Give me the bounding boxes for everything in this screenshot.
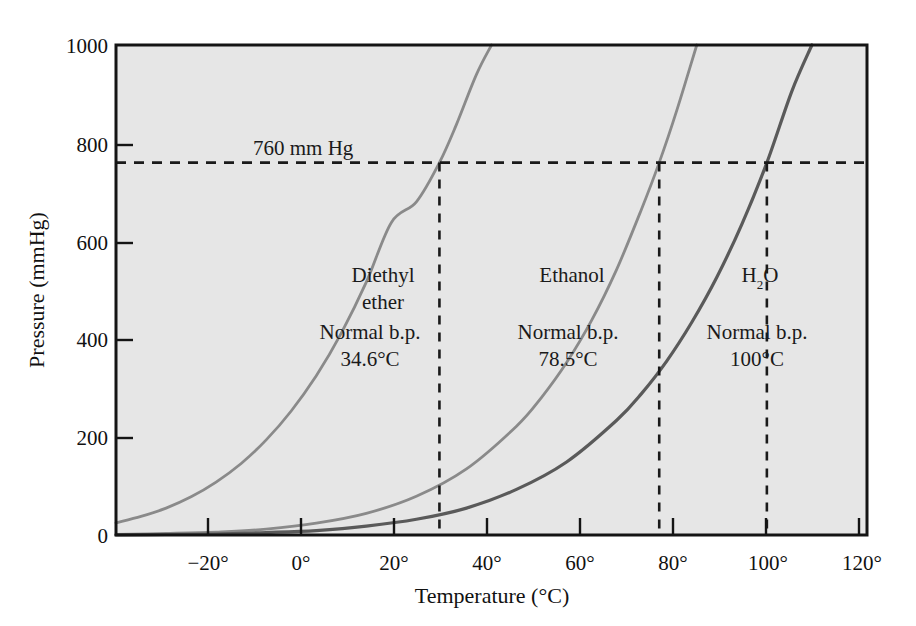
annotation-ethanol-name: Ethanol	[539, 263, 604, 287]
y-tick-label-600: 600	[77, 231, 109, 255]
annotation-diethyl-ether-bp-caption: Normal b.p.	[320, 320, 421, 344]
y-tick-label-400: 400	[77, 328, 109, 352]
annotation-water-bp-caption: Normal b.p.	[707, 320, 808, 344]
x-tick-label-60: 60°	[565, 551, 594, 575]
plot-area-background	[116, 45, 867, 535]
x-tick-label-20: 20°	[379, 551, 408, 575]
y-tick-label-800: 800	[77, 133, 109, 157]
annotation-water-name-main: H	[742, 263, 757, 287]
annotation-water-name-tail: O	[763, 263, 778, 287]
x-axis-title: Temperature (°C)	[415, 583, 569, 608]
reference-line-label: 760 mm Hg	[253, 136, 354, 160]
x-tick-label-40: 40°	[472, 551, 501, 575]
y-axis-tick-labels: 1000 800 600 400 200 0	[66, 34, 108, 548]
vapor-pressure-chart-figure: 1000 800 600 400 200 0 −20° 0° 20° 40° 6…	[0, 0, 916, 626]
x-tick-label-120: 120°	[842, 551, 882, 575]
annotation-ethanol-bp-value: 78.5°C	[538, 347, 597, 371]
x-tick-label-100: 100°	[748, 551, 788, 575]
y-axis-title: Pressure (mmHg)	[24, 212, 49, 368]
x-axis-tick-labels: −20° 0° 20° 40° 60° 80° 100° 120°	[187, 551, 882, 575]
chart-svg: 1000 800 600 400 200 0 −20° 0° 20° 40° 6…	[0, 0, 916, 626]
x-tick-label-0: 0°	[292, 551, 311, 575]
annotation-water-bp-value: 100°C	[730, 347, 784, 371]
annotation-diethyl-ether-name-line2: ether	[362, 290, 404, 314]
x-tick-label-minus20: −20°	[187, 551, 228, 575]
annotation-diethyl-ether-bp-value: 34.6°C	[340, 347, 399, 371]
x-tick-label-80: 80°	[658, 551, 687, 575]
y-tick-label-200: 200	[77, 426, 109, 450]
annotation-diethyl-ether-name-line1: Diethyl	[352, 263, 415, 287]
y-tick-label-0: 0	[98, 524, 109, 548]
annotation-ethanol-bp-caption: Normal b.p.	[518, 320, 619, 344]
y-tick-label-1000: 1000	[66, 34, 108, 58]
